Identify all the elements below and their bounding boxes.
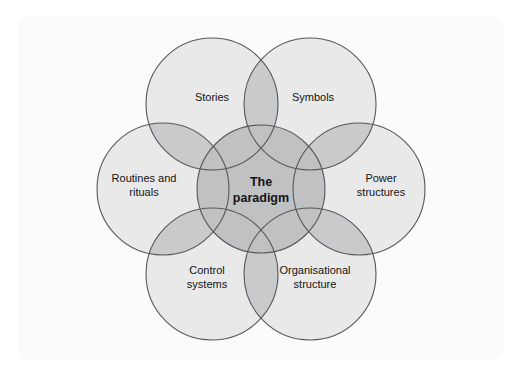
petal-label-line: structures xyxy=(357,186,406,198)
petal-label-stories: Stories xyxy=(195,91,230,103)
core-label-line: paradigm xyxy=(233,191,289,205)
petal-label-line: structure xyxy=(294,278,337,290)
petal-label-symbols: Symbols xyxy=(292,91,335,103)
petal-label-line: Power xyxy=(365,172,397,184)
core-circle-group xyxy=(197,125,325,253)
core-label-line: The xyxy=(250,175,272,189)
petal-label-line: Control xyxy=(189,264,224,276)
diagram-canvas: StoriesSymbolsPowerstructuresOrganisatio… xyxy=(0,0,522,377)
core-circle-the-paradigm xyxy=(197,125,325,253)
cultural-web-venn: StoriesSymbolsPowerstructuresOrganisatio… xyxy=(0,0,522,377)
petal-label-line: Stories xyxy=(195,91,230,103)
petal-label-line: Symbols xyxy=(292,91,335,103)
petal-label-line: systems xyxy=(187,278,228,290)
petal-label-line: Routines and xyxy=(112,172,177,184)
petal-label-line: rituals xyxy=(129,186,159,198)
petal-label-line: Organisational xyxy=(280,264,351,276)
